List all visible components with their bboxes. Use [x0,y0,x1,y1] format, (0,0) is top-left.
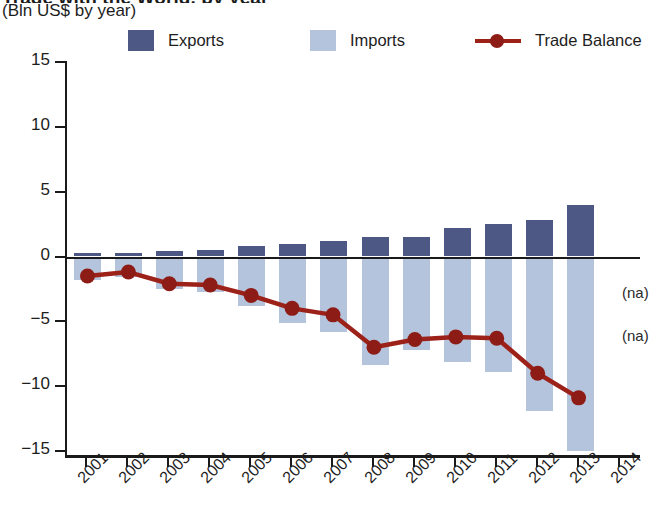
trade-balance-point [203,278,218,293]
chart-legend: Exports Imports Trade Balance [128,28,642,52]
trade-balance-point [448,329,463,344]
x-tick-label: 2011 [484,450,521,487]
legend-item-imports[interactable]: Imports [310,30,405,51]
y-tick-mark [55,256,67,258]
x-tick-label: 2007 [320,449,358,487]
legend-swatch-imports-icon [310,30,336,51]
y-tick-mark [55,61,67,63]
trade-balance-point [80,268,95,283]
legend-line-marker-icon [475,30,521,51]
trade-balance-point [530,366,545,381]
trade-balance-line [87,272,578,398]
y-tick-label: −5 [31,309,50,329]
trade-balance-point [366,340,381,355]
y-tick-label: 0 [41,245,50,265]
x-tick-label: 2001 [74,449,112,487]
plot-area: 151050−5−10−15 (na)(na) [65,62,640,451]
trade-balance-point [326,307,341,322]
y-tick-label: −15 [21,439,50,459]
x-tick-label: 2010 [443,449,481,487]
y-tick-mark [55,191,67,193]
x-tick-label: 2004 [197,449,235,487]
trade-balance-point [285,301,300,316]
trade-balance-point [407,332,422,347]
x-axis: 2001200220032004200520062007200820092010… [65,455,640,458]
x-tick-label: 2005 [238,449,276,487]
y-tick-label: 10 [31,115,50,135]
x-tick-label: 2003 [156,449,194,487]
y-tick-label: 5 [41,180,50,200]
trade-balance-point [121,265,136,280]
legend-swatch-exports-icon [128,30,154,51]
chart-subtitle: (Bln US$ by year) [2,1,136,21]
trade-balance-line-layer [67,62,640,451]
y-tick-mark [55,385,67,387]
y-tick-mark [55,126,67,128]
x-tick-label: 2014 [607,449,645,487]
x-tick-label: 2006 [279,449,317,487]
na-annotation: (na) [622,327,649,344]
legend-label-imports: Imports [350,31,405,50]
chart-root: Trade with the World, by year (Bln US$ b… [0,0,661,510]
legend-item-trade-balance[interactable]: Trade Balance [475,30,642,51]
x-tick-label: 2013 [566,449,604,487]
trade-balance-point [244,288,259,303]
trade-balance-point [489,331,504,346]
y-tick-label: 15 [31,50,50,70]
x-tick-label: 2009 [402,449,440,487]
x-tick-label: 2008 [361,449,399,487]
trade-balance-point [571,390,586,405]
x-tick-label: 2012 [525,449,563,487]
x-tick-label: 2002 [115,449,153,487]
y-tick-label: −10 [21,374,50,394]
legend-label-trade-balance: Trade Balance [535,31,642,50]
na-annotation: (na) [622,284,649,301]
y-tick-mark [55,320,67,322]
trade-balance-point [162,276,177,291]
legend-item-exports[interactable]: Exports [128,30,224,51]
legend-label-exports: Exports [168,31,224,50]
